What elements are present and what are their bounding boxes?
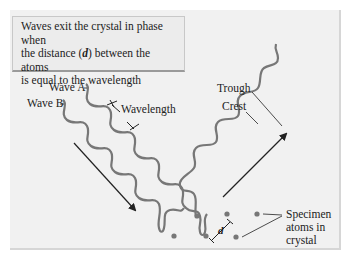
specimen-label-2: atoms in: [286, 221, 326, 233]
wavelength-label: Wavelength: [121, 103, 176, 116]
outgoing-wave: [180, 44, 278, 216]
distance-label: d: [218, 224, 224, 236]
specimen-label-1: Specimen: [286, 208, 332, 221]
trough-label: Trough: [217, 82, 251, 95]
incident-arrow: [74, 143, 135, 210]
diffracted-arrow: [223, 134, 286, 197]
wave-a-label: Wave A: [49, 81, 86, 93]
wave-b-label: Wave B: [27, 97, 64, 109]
specimen-label-3: crystal: [286, 234, 317, 247]
crest-label: Crest: [222, 100, 247, 112]
specimen-atoms: [171, 211, 259, 239]
wave-b: [63, 100, 184, 232]
diffraction-diagram: Wavelength Wave A Wave B Trough Crest d …: [0, 0, 354, 261]
